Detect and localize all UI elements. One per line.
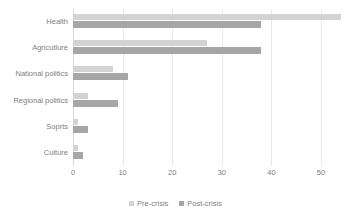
bar-group-3	[73, 93, 321, 109]
bar-post-crisis-0	[73, 21, 261, 28]
x-tick-label-20: 20	[168, 168, 176, 178]
bar-post-crisis-5	[73, 152, 83, 159]
gridline-10	[123, 9, 124, 166]
bar-group-5	[73, 145, 321, 161]
bar-pre-crisis-3	[73, 93, 88, 99]
gridline-40	[271, 9, 272, 166]
bar-post-crisis-4	[73, 126, 88, 133]
category-axis-labels: HealthAgricutlureNational politicsRegion…	[0, 9, 68, 166]
legend-label-pre-crisis: Pre-crisis	[137, 199, 168, 208]
x-tick-label-50: 50	[317, 168, 325, 178]
bar-group-0	[73, 14, 321, 30]
legend-item-pre-crisis: Pre-crisis	[129, 199, 168, 208]
x-axis-tick-labels: 01020304050	[73, 168, 321, 182]
bar-post-crisis-2	[73, 73, 128, 80]
bar-pre-crisis-4	[73, 119, 78, 125]
category-label-0: Health	[0, 17, 68, 26]
category-label-1: Agricutlure	[0, 43, 68, 52]
category-label-2: National politics	[0, 69, 68, 78]
gridline-30	[222, 9, 223, 166]
bar-group-1	[73, 40, 321, 56]
grouped-bar-chart: HealthAgricutlureNational politicsRegion…	[0, 0, 351, 216]
bar-group-2	[73, 66, 321, 82]
bar-post-crisis-3	[73, 100, 118, 107]
legend-swatch-icon-pre-crisis	[129, 201, 134, 206]
bar-pre-crisis-2	[73, 66, 113, 72]
legend-swatch-icon-post-crisis	[179, 201, 184, 206]
bar-pre-crisis-5	[73, 145, 78, 151]
bar-pre-crisis-0	[73, 14, 341, 20]
plot-area	[73, 9, 321, 166]
x-tick-label-0: 0	[71, 168, 75, 178]
legend-item-post-crisis: Post-crisis	[179, 199, 222, 208]
bar-post-crisis-1	[73, 47, 261, 54]
category-label-5: Culture	[0, 148, 68, 157]
chart-legend: Pre-crisis Post-crisis	[0, 196, 351, 210]
gridline-50	[321, 9, 322, 166]
bar-pre-crisis-1	[73, 40, 207, 46]
x-tick-label-30: 30	[218, 168, 226, 178]
category-label-4: Soprts	[0, 122, 68, 131]
category-label-3: Regional politics	[0, 96, 68, 105]
legend-label-post-crisis: Post-crisis	[187, 199, 222, 208]
gridline-0	[73, 9, 74, 166]
x-tick-label-40: 40	[267, 168, 275, 178]
bar-group-4	[73, 119, 321, 135]
x-tick-label-10: 10	[118, 168, 126, 178]
gridline-20	[172, 9, 173, 166]
